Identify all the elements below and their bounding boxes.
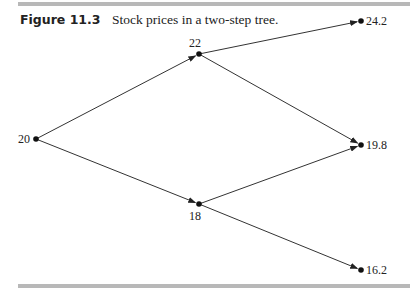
binomial-tree-diagram: 20221824.219.816.2	[0, 0, 410, 295]
edge-up-ud	[199, 54, 358, 143]
node-dot-down	[196, 201, 202, 207]
node-dot-ud	[358, 142, 364, 148]
edge-down-ud	[199, 146, 357, 204]
node-dot-dd	[358, 267, 364, 273]
node-dot-up	[196, 51, 202, 57]
node-label-ud: 19.8	[366, 138, 387, 152]
bottom-rule	[18, 284, 410, 288]
node-label-down: 18	[189, 209, 201, 223]
node-label-up: 22	[189, 36, 201, 50]
edge-root-down	[36, 139, 195, 203]
tree-edges	[36, 22, 358, 269]
edge-root-up	[36, 56, 195, 139]
edge-up-uu	[199, 22, 357, 54]
node-dot-uu	[358, 18, 364, 24]
node-label-root: 20	[18, 132, 30, 146]
node-label-dd: 16.2	[366, 263, 387, 277]
node-dot-root	[33, 136, 39, 142]
node-label-uu: 24.2	[366, 14, 387, 28]
edge-down-dd	[199, 204, 357, 268]
